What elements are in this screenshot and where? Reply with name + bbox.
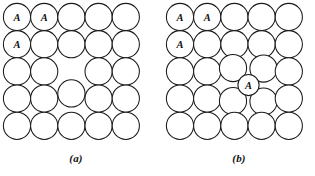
- lattice-atom: [31, 112, 58, 139]
- panel-b-caption: (b): [163, 152, 315, 164]
- lattice-atom: [31, 58, 58, 85]
- atom-label: A: [40, 12, 48, 23]
- lattice-atom: [3, 58, 30, 85]
- lattice-atom: [112, 58, 139, 85]
- atom-label: A: [175, 12, 183, 23]
- lattice-atom: [58, 3, 85, 30]
- lattice-atom: [221, 112, 248, 139]
- atom-label: A: [175, 39, 183, 50]
- lattice-atom: [221, 3, 248, 30]
- lattice-atom: [31, 85, 58, 112]
- lattice-atom: [248, 3, 275, 30]
- atom-label: A: [12, 12, 20, 23]
- lattice-atom: [112, 3, 139, 30]
- lattice-atom: [275, 85, 302, 112]
- lattice-atom: [85, 3, 112, 30]
- lattice-svg-b: AAAA: [163, 0, 315, 150]
- atom-label: A: [12, 39, 20, 50]
- lattice-atom: [3, 85, 30, 112]
- lattice-atom: [275, 112, 302, 139]
- lattice-atom: [85, 85, 112, 112]
- lattice-atom: [248, 112, 275, 139]
- lattice-atom: [112, 112, 139, 139]
- lattice-atom: [275, 58, 302, 85]
- defect-figure: AAA (a) AAAA (b): [0, 0, 315, 176]
- lattice-atom: [58, 31, 85, 58]
- lattice-atom: [275, 3, 302, 30]
- lattice-atom: [85, 58, 112, 85]
- panel-a-caption: (a): [0, 152, 152, 164]
- lattice-atom: [248, 31, 275, 58]
- interstitial-atom-label: A: [244, 80, 252, 91]
- lattice-atom: [194, 58, 221, 85]
- lattice-atom: [194, 31, 221, 58]
- lattice-atom: [166, 58, 193, 85]
- lattice-atom: [166, 112, 193, 139]
- lattice-atom: [3, 112, 30, 139]
- lattice-atom: [194, 112, 221, 139]
- panel-b-interstitial: AAAA (b): [163, 0, 315, 176]
- lattice-atom: [275, 31, 302, 58]
- lattice-atom: [85, 31, 112, 58]
- lattice-atom: [221, 31, 248, 58]
- lattice-atom: [166, 85, 193, 112]
- lattice-atom: [112, 85, 139, 112]
- atom-label: A: [203, 12, 211, 23]
- lattice-atom: [58, 112, 85, 139]
- lattice-svg-a: AAA: [0, 0, 152, 150]
- panel-a-vacancy: AAA (a): [0, 0, 152, 176]
- lattice-atom: [85, 112, 112, 139]
- lattice-atom: [31, 31, 58, 58]
- lattice-atom: [194, 85, 221, 112]
- lattice-atom: [58, 80, 85, 107]
- lattice-atom: [112, 31, 139, 58]
